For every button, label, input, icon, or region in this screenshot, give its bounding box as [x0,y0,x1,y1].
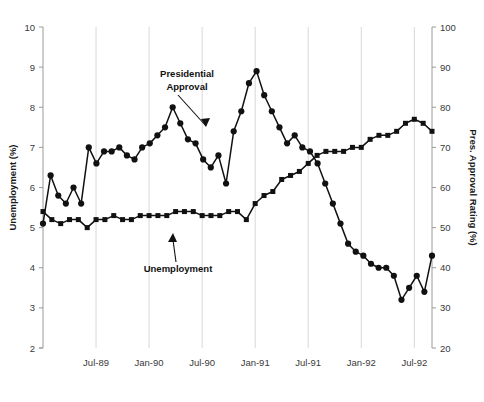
y-axis-left-tick-label: 7 [30,142,35,153]
data-point-presidential-approval [376,265,382,271]
data-point-unemployment [120,217,125,222]
data-point-unemployment [102,217,107,222]
data-point-presidential-approval [398,297,404,303]
data-point-presidential-approval [63,200,69,206]
data-point-unemployment [394,129,399,134]
data-point-presidential-approval [154,132,160,138]
data-point-unemployment [129,217,134,222]
x-axis-tick-label: Jul-90 [189,357,215,368]
y-axis-right-tick-label: 50 [440,222,451,233]
data-point-unemployment [58,221,63,226]
y-axis-right-tick-label: 30 [440,302,451,313]
data-point-presidential-approval [40,221,46,227]
annotation-unemployment-arrowhead [168,233,177,242]
data-point-unemployment [270,189,275,194]
data-point-presidential-approval [238,108,244,114]
data-point-unemployment [297,169,302,174]
data-point-presidential-approval [208,164,214,170]
series-line-presidential-approval [43,71,432,300]
data-point-presidential-approval [284,140,290,146]
data-point-unemployment [385,133,390,138]
annotation-unemployment-arrow [173,240,176,262]
y-axis-left-tick-label: 5 [30,222,35,233]
y-axis-right-tick-label: 100 [440,22,456,33]
data-point-unemployment [376,133,381,138]
data-point-unemployment [315,153,320,158]
data-point-presidential-approval [223,180,229,186]
x-axis-tick-label: Jan-91 [241,357,270,368]
y-axis-right-tick-label: 70 [440,142,451,153]
data-point-presidential-approval [170,104,176,110]
data-point-unemployment [235,209,240,214]
data-point-presidential-approval [414,273,420,279]
data-point-unemployment [332,149,337,154]
data-point-presidential-approval [337,221,343,227]
data-point-unemployment [306,161,311,166]
data-point-unemployment [67,217,72,222]
data-point-unemployment [208,213,213,218]
y-axis-right-title: Pres. Approval Rating (%) [468,129,479,245]
data-point-presidential-approval [231,128,237,134]
data-point-presidential-approval [200,156,206,162]
data-point-unemployment [226,209,231,214]
data-point-presidential-approval [353,249,359,255]
data-point-unemployment [323,149,328,154]
dual-axis-time-series-chart: 23456789102030405060708090100Jul-89Jan-9… [0,0,484,402]
data-point-unemployment [94,217,99,222]
data-point-presidential-approval [261,92,267,98]
data-point-unemployment [49,217,54,222]
y-axis-right-tick-label: 20 [440,343,451,354]
x-axis-tick-label: Jul-92 [401,357,427,368]
data-point-presidential-approval [421,289,427,295]
x-axis-tick-label: Jul-91 [295,357,321,368]
data-point-unemployment [412,117,417,122]
data-point-unemployment [147,213,152,218]
data-point-presidential-approval [253,68,259,74]
data-point-unemployment [403,121,408,126]
y-axis-right-tick-label: 90 [440,62,451,73]
data-point-presidential-approval [330,200,336,206]
data-point-unemployment [111,213,116,218]
data-point-presidential-approval [101,148,107,154]
annotation-presidential-approval-label: Presidential [160,68,214,79]
data-point-presidential-approval [383,265,389,271]
y-axis-left-tick-label: 3 [30,302,35,313]
x-axis-tick-label: Jan-90 [135,357,164,368]
data-point-unemployment [182,209,187,214]
data-point-presidential-approval [139,144,145,150]
x-axis-tick-label: Jan-92 [347,357,376,368]
data-point-presidential-approval [215,152,221,158]
data-point-unemployment [85,225,90,230]
data-point-presidential-approval [269,108,275,114]
y-axis-right-tick-label: 80 [440,102,451,113]
y-axis-left-tick-label: 10 [24,22,35,33]
data-point-unemployment [430,129,435,134]
data-point-unemployment [341,149,346,154]
y-axis-left-tick-label: 4 [30,262,35,273]
chart-container: 23456789102030405060708090100Jul-89Jan-9… [0,0,484,402]
y-axis-left-title: Unemployment (%) [7,144,18,230]
data-point-unemployment [155,213,160,218]
data-point-unemployment [217,213,222,218]
data-point-presidential-approval [345,241,351,247]
data-point-unemployment [191,209,196,214]
data-point-presidential-approval [406,285,412,291]
data-point-presidential-approval [93,160,99,166]
x-axis-tick-label: Jul-89 [83,357,109,368]
y-axis-left-tick-label: 2 [30,343,35,354]
data-point-presidential-approval [48,172,54,178]
data-point-presidential-approval [292,132,298,138]
data-point-unemployment [359,145,364,150]
data-point-unemployment [262,193,267,198]
data-point-presidential-approval [368,261,374,267]
data-point-presidential-approval [391,273,397,279]
data-point-presidential-approval [360,253,366,259]
y-axis-right-tick-label: 60 [440,182,451,193]
data-point-presidential-approval [147,140,153,146]
data-point-unemployment [76,217,81,222]
data-point-presidential-approval [78,200,84,206]
y-axis-left-tick-label: 9 [30,62,35,73]
data-point-presidential-approval [162,124,168,130]
data-point-presidential-approval [124,152,130,158]
data-point-unemployment [288,173,293,178]
